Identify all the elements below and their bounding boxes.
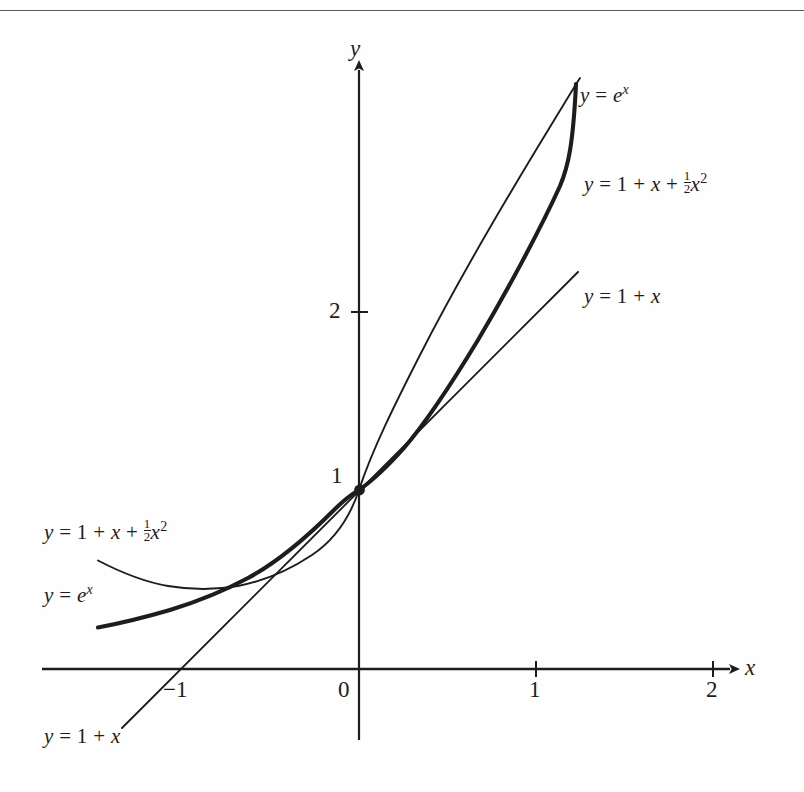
tick-label-x-minus1: −1 bbox=[163, 677, 187, 703]
x-axis-label: x bbox=[745, 655, 755, 681]
curve-exponential bbox=[98, 84, 576, 628]
annotation-exp-left-exponent: x bbox=[87, 582, 94, 597]
annotation-exponential-right: y = ex bbox=[580, 82, 629, 108]
annotation-exp-right-eq: = bbox=[595, 83, 607, 107]
annotation-exp-left-base: e bbox=[77, 583, 87, 607]
tick-label-origin: 0 bbox=[338, 677, 350, 703]
y-axis bbox=[351, 70, 368, 740]
curve-quadratic-approximation bbox=[98, 78, 580, 589]
annotation-quadratic-left: y = 1 + x + 12x2 bbox=[44, 518, 168, 545]
tick-label-y-1: 1 bbox=[331, 463, 343, 489]
annotation-exp-left-lhs: y bbox=[44, 583, 54, 607]
tick-label-x-1: 1 bbox=[529, 677, 541, 703]
annotation-linear-right: y = 1 + x bbox=[584, 284, 661, 309]
coordinate-plot bbox=[0, 0, 804, 792]
x-axis bbox=[42, 661, 730, 677]
tick-label-x-2: 2 bbox=[706, 677, 718, 703]
annotation-linear-left: y = 1 + x bbox=[44, 724, 121, 749]
annotation-exp-right-base: e bbox=[613, 83, 623, 107]
annotation-exp-left-eq: = bbox=[59, 583, 71, 607]
tick-label-y-2: 2 bbox=[329, 298, 341, 324]
annotation-exp-right-exponent: x bbox=[623, 82, 630, 97]
intersection-point-dot bbox=[354, 485, 365, 496]
figure-canvas: y x 0 −1 1 2 1 2 y = ex y = 1 + x + 12x2… bbox=[0, 0, 804, 792]
y-axis-label: y bbox=[350, 36, 360, 62]
annotation-exp-right-lhs: y bbox=[580, 83, 590, 107]
annotation-exponential-left: y = ex bbox=[44, 582, 93, 608]
curve-linear-approximation bbox=[122, 272, 578, 728]
annotation-quadratic-right: y = 1 + x + 12x2 bbox=[584, 170, 708, 197]
